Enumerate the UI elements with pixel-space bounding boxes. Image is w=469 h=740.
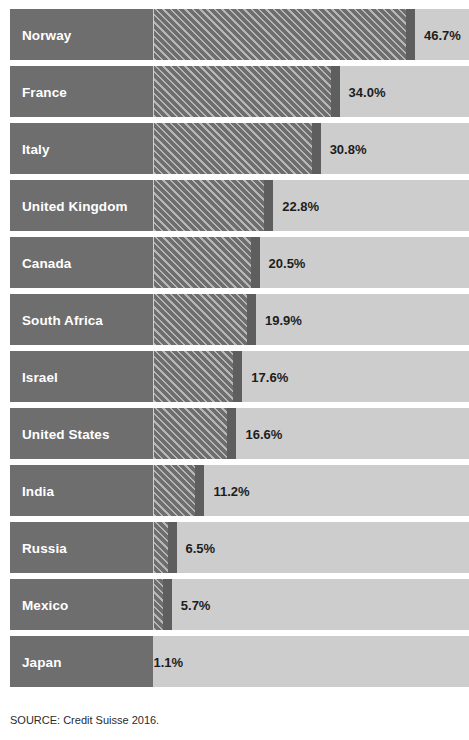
bar-end-cap bbox=[251, 237, 260, 288]
country-label: United Kingdom bbox=[22, 198, 128, 213]
bar-hatch-segment bbox=[154, 180, 264, 231]
country-label-block[interactable]: Italy bbox=[10, 123, 153, 174]
bar-hatch-segment bbox=[154, 351, 233, 402]
bar-row[interactable]: Israel17.6% bbox=[0, 351, 469, 402]
bar-row[interactable]: United States16.6% bbox=[0, 408, 469, 459]
bar-row[interactable]: France34.0% bbox=[0, 66, 469, 117]
value-label: 6.5% bbox=[186, 540, 216, 555]
country-label: Norway bbox=[22, 27, 71, 42]
bar-row[interactable]: Italy30.8% bbox=[0, 123, 469, 174]
country-label: United States bbox=[22, 426, 110, 441]
bar-end-cap bbox=[163, 579, 172, 630]
country-label-block[interactable]: Mexico bbox=[10, 579, 153, 630]
value-label: 17.6% bbox=[251, 369, 288, 384]
bar-row[interactable]: United Kingdom22.8% bbox=[0, 180, 469, 231]
value-label: 34.0% bbox=[349, 84, 386, 99]
country-label-block[interactable]: Japan bbox=[10, 636, 153, 687]
bar-end-cap bbox=[312, 123, 321, 174]
country-label-block[interactable]: United Kingdom bbox=[10, 180, 153, 231]
country-label-block[interactable]: France bbox=[10, 66, 153, 117]
bar-hatch-segment bbox=[154, 237, 251, 288]
value-label: 19.9% bbox=[265, 312, 302, 327]
bar-end-cap bbox=[168, 522, 177, 573]
bar-row[interactable]: South Africa19.9% bbox=[0, 294, 469, 345]
bar-hatch-segment bbox=[154, 408, 227, 459]
country-label: Japan bbox=[22, 654, 62, 669]
value-label: 30.8% bbox=[330, 141, 367, 156]
country-label-block[interactable]: Norway bbox=[10, 9, 153, 60]
bar-hatch-segment bbox=[154, 9, 406, 60]
bar-row[interactable]: Norway46.7% bbox=[0, 9, 469, 60]
bar-row[interactable]: Russia6.5% bbox=[0, 522, 469, 573]
value-label: 22.8% bbox=[282, 198, 319, 213]
bar-hatch-segment bbox=[154, 294, 247, 345]
value-label: 20.5% bbox=[269, 255, 306, 270]
value-label: 16.6% bbox=[245, 426, 282, 441]
country-label: Canada bbox=[22, 255, 71, 270]
clipped-title-text bbox=[10, 0, 310, 3]
bar-hatch-segment bbox=[154, 579, 163, 630]
country-label: France bbox=[22, 84, 67, 99]
country-label-block[interactable]: South Africa bbox=[10, 294, 153, 345]
bar-rows-container: Norway46.7%France34.0%Italy30.8%United K… bbox=[0, 9, 469, 693]
bar-end-cap bbox=[406, 9, 415, 60]
bar-end-cap bbox=[247, 294, 256, 345]
bar-row[interactable]: India11.2% bbox=[0, 465, 469, 516]
country-label-block[interactable]: Israel bbox=[10, 351, 153, 402]
bar-end-cap bbox=[264, 180, 273, 231]
bar-hatch-segment bbox=[154, 123, 312, 174]
bar-hatch-segment bbox=[154, 66, 331, 117]
bar-row[interactable]: Japan1.1% bbox=[0, 636, 469, 687]
bar-end-cap bbox=[195, 465, 204, 516]
bar-end-cap bbox=[331, 66, 340, 117]
source-note: SOURCE: Credit Suisse 2016. bbox=[10, 714, 159, 726]
value-label: 46.7% bbox=[424, 27, 461, 42]
bar-hatch-segment bbox=[154, 522, 168, 573]
bar-hatch-segment bbox=[154, 465, 195, 516]
country-label: Russia bbox=[22, 540, 67, 555]
country-label: Mexico bbox=[22, 597, 68, 612]
value-label: 5.7% bbox=[181, 597, 211, 612]
country-label-block[interactable]: United States bbox=[10, 408, 153, 459]
bar-end-cap bbox=[227, 408, 236, 459]
bar-row[interactable]: Mexico5.7% bbox=[0, 579, 469, 630]
bar-end-cap bbox=[233, 351, 242, 402]
country-label-block[interactable]: India bbox=[10, 465, 153, 516]
country-label: India bbox=[22, 483, 54, 498]
value-label: 11.2% bbox=[213, 483, 249, 498]
bar-chart: Norway46.7%France34.0%Italy30.8%United K… bbox=[0, 0, 469, 740]
value-label: 1.1% bbox=[154, 654, 184, 669]
country-label: Italy bbox=[22, 141, 50, 156]
country-label-block[interactable]: Canada bbox=[10, 237, 153, 288]
country-label: Israel bbox=[22, 369, 58, 384]
country-label-block[interactable]: Russia bbox=[10, 522, 153, 573]
country-label: South Africa bbox=[22, 312, 103, 327]
bar-row[interactable]: Canada20.5% bbox=[0, 237, 469, 288]
